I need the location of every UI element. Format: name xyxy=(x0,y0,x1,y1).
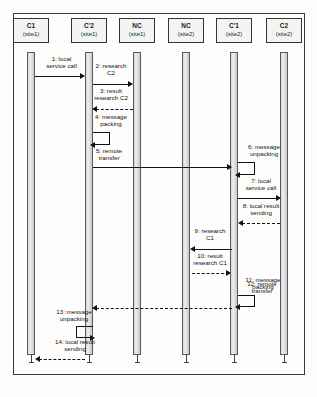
lifeline-foot-c2 xyxy=(282,362,287,363)
participant-site: (site2) xyxy=(178,31,195,37)
participant-site: (site1) xyxy=(23,31,40,37)
message-line-9[interactable] xyxy=(194,249,232,250)
lifeline-foot-nc-site1 xyxy=(135,362,140,363)
lifeline-stub-nc-site2 xyxy=(186,355,187,362)
participant-site: (site1) xyxy=(129,31,146,37)
message-line-5[interactable] xyxy=(93,167,231,168)
message-label-13: 13: message unpacking xyxy=(44,308,104,322)
message-selfloop-6[interactable] xyxy=(238,162,255,175)
message-arrowhead-3 xyxy=(92,106,97,112)
message-label-5: 5: remote transfer xyxy=(85,147,133,161)
message-selfloop-11[interactable] xyxy=(238,295,255,307)
message-arrowhead-11 xyxy=(235,304,240,310)
participant-name: C1 xyxy=(27,23,36,30)
message-line-3[interactable] xyxy=(96,109,133,110)
lifeline-stub-c1 xyxy=(31,355,32,362)
message-line-8[interactable] xyxy=(242,223,280,224)
lifeline-stub-nc-site1 xyxy=(137,355,138,362)
message-line-1[interactable] xyxy=(35,76,83,77)
message-line-10[interactable] xyxy=(192,273,229,274)
message-line-12[interactable] xyxy=(96,308,232,309)
message-arrowhead-14 xyxy=(35,356,40,362)
message-line-2[interactable] xyxy=(93,84,131,85)
participant-header-cp1[interactable]: C'1 (site2) xyxy=(216,18,252,43)
diagram-frame: C1 (site1) C'2 (site1) NC (site1) NC (si… xyxy=(13,13,305,375)
lifeline-stub-c2 xyxy=(284,355,285,362)
participant-name: NC xyxy=(132,23,142,30)
sequence-diagram-canvas: C1 (site1) C'2 (site1) NC (site1) NC (si… xyxy=(0,0,317,397)
message-label-4: 4: message packing xyxy=(84,113,138,127)
message-label-2: 2: research C2 xyxy=(85,62,137,76)
lifeline-foot-nc-site2 xyxy=(184,362,189,363)
message-line-14[interactable] xyxy=(39,359,85,360)
message-line-7[interactable] xyxy=(238,198,280,199)
participant-site: (site2) xyxy=(226,31,243,37)
message-arrowhead-10 xyxy=(226,270,231,276)
message-label-14: 14: local result sending xyxy=(44,338,106,352)
message-label-12: 12: remote transfer xyxy=(236,280,288,294)
activation-bar-nc-site2 xyxy=(182,52,190,355)
message-label-3: 3: result research C2 xyxy=(83,87,139,101)
message-label-1: 1: local service call xyxy=(34,55,89,69)
participant-name: C'1 xyxy=(229,23,239,30)
lifeline-stub-cp2 xyxy=(89,355,90,362)
activation-bar-c1 xyxy=(27,52,35,355)
participant-header-c2[interactable]: C2 (site2) xyxy=(266,18,302,43)
lifeline-stub-cp1 xyxy=(234,355,235,362)
participant-name: C'2 xyxy=(84,23,94,30)
participant-site: (site2) xyxy=(276,31,293,37)
message-label-7: 7: local service call xyxy=(234,177,288,191)
message-label-8: 8: local result sending xyxy=(230,202,292,216)
message-arrowhead-7 xyxy=(276,195,281,201)
message-arrowhead-8 xyxy=(238,220,243,226)
message-arrowhead-5 xyxy=(227,164,232,170)
message-selfloop-4[interactable] xyxy=(93,132,110,145)
lifeline-foot-cp1 xyxy=(232,362,237,363)
participant-header-nc-site1[interactable]: NC (site1) xyxy=(119,18,155,43)
message-label-9: 9: research C1 xyxy=(184,227,236,241)
lifeline-foot-c1 xyxy=(29,362,34,363)
message-label-6: 6: message unpacking xyxy=(236,143,292,157)
participant-name: NC xyxy=(181,23,191,30)
message-label-10: 10: result research C1 xyxy=(181,252,239,266)
participant-name: C2 xyxy=(280,23,289,30)
participant-header-nc-site2[interactable]: NC (site2) xyxy=(168,18,204,43)
participant-header-cp2[interactable]: C'2 (site1) xyxy=(71,18,107,43)
lifeline-foot-cp2 xyxy=(87,362,92,363)
participant-site: (site1) xyxy=(81,31,98,37)
participant-header-c1[interactable]: C1 (site1) xyxy=(13,18,49,43)
